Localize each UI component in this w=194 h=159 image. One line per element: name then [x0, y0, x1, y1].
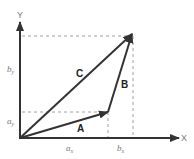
y-axis-label: Y [17, 10, 23, 20]
ay-label: ay [7, 116, 15, 127]
ax-sub: x [70, 148, 74, 154]
vector-b-label: B [121, 79, 128, 90]
bx-sub: x [121, 148, 125, 154]
vector-addition-diagram: Y X C B A by ay ax bx [0, 0, 194, 159]
ax-label: ax [66, 143, 74, 154]
by-label: by [7, 64, 15, 75]
x-axis-label: X [181, 133, 187, 143]
by-sub: y [11, 69, 15, 75]
ay-sub: y [11, 121, 15, 127]
bx-label: bx [117, 143, 125, 154]
vector-c-label: C [76, 68, 83, 79]
vector-a-label: A [77, 123, 84, 134]
